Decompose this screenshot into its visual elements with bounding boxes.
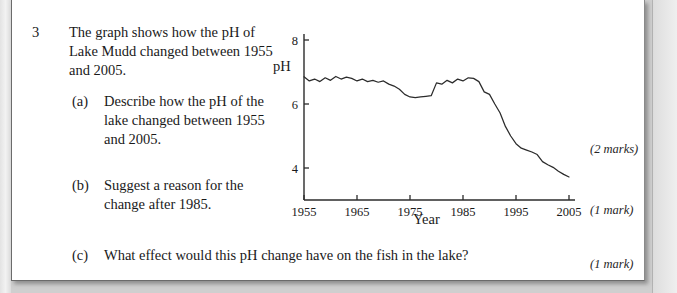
part-a-label: (a) [72,92,88,111]
svg-text:1965: 1965 [345,205,370,218]
marks-part-a: (2 marks) [590,142,638,157]
svg-text:1985: 1985 [451,205,476,218]
svg-text:4: 4 [292,162,299,176]
part-b-text: Suggest a reason for the change after 19… [104,176,272,214]
exam-question-page: 3 The graph shows how the pH of Lake Mud… [11,0,645,281]
part-a-text: Describe how the pH of the lake changed … [104,92,272,149]
question-number: 3 [32,24,39,41]
svg-text:2005: 2005 [557,205,582,218]
part-b-label: (b) [72,176,89,195]
page-left-margin-strip [0,0,11,293]
marks-part-c: (1 mark) [590,257,633,272]
part-c-text: What effect would this pH change have on… [104,246,502,265]
question-part-c: (c) What effect would this pH change hav… [72,246,502,265]
ph-line-chart: pH Year 468195519651975198519952005 [267,18,597,218]
question-part-a: (a) Describe how the pH of the lake chan… [72,92,272,149]
page-right-margin-strip [652,0,677,293]
svg-text:6: 6 [292,98,298,112]
svg-text:8: 8 [292,34,298,48]
question-part-b: (b) Suggest a reason for the change afte… [72,176,272,214]
question-stem: The graph shows how the pH of Lake Mudd … [69,23,274,80]
svg-text:1955: 1955 [292,205,317,218]
svg-text:1995: 1995 [504,205,529,218]
chart-x-axis-label: Year [413,211,440,228]
chart-y-axis-label: pH [273,58,291,75]
chart-plot-area: 468195519651975198519952005 [267,18,597,218]
part-c-label: (c) [72,246,88,265]
